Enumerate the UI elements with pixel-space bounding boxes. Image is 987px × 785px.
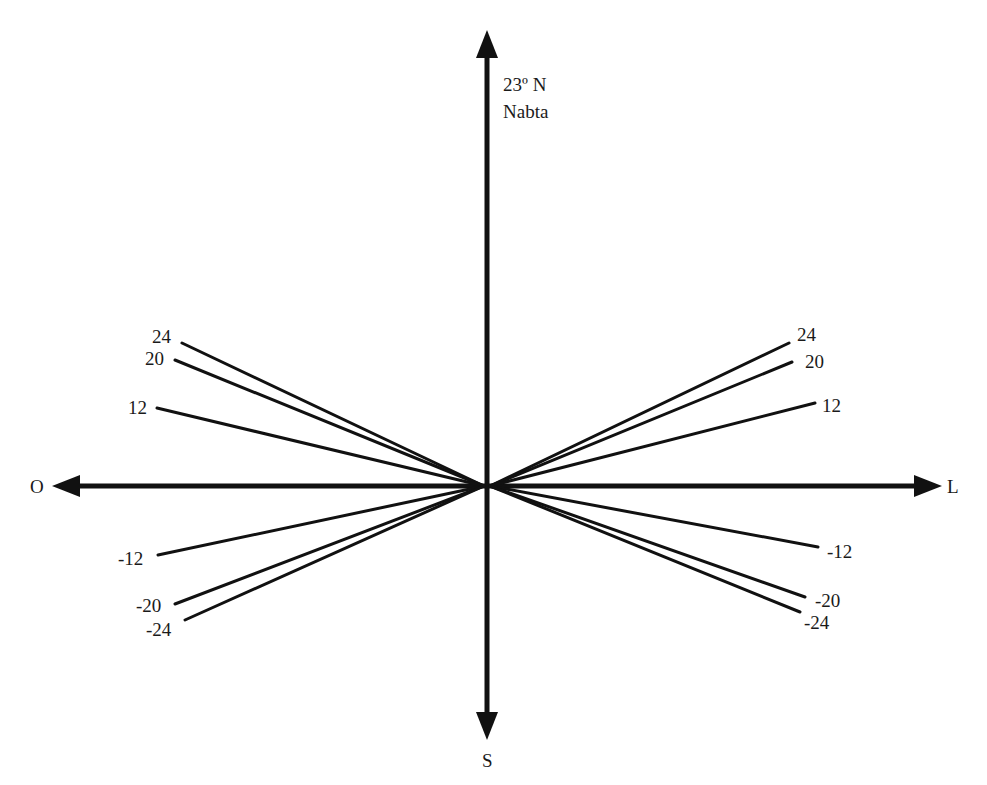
north-arrowhead — [476, 30, 498, 58]
ray-label-right-neg12: -12 — [827, 542, 852, 561]
ray-label-left-24: 24 — [152, 327, 171, 346]
west-arrowhead — [52, 475, 80, 497]
ray-label-right-20: 20 — [805, 352, 824, 371]
south-arrowhead — [476, 712, 498, 740]
arrowheads — [52, 30, 942, 740]
place-label: Nabta — [503, 102, 548, 121]
ray-left-neg12 — [158, 486, 484, 555]
ray-label-right-24: 24 — [797, 325, 816, 344]
west-label: O — [30, 477, 44, 496]
ray-right-20 — [490, 362, 792, 486]
ray-right-neg12 — [490, 486, 818, 547]
ray-left-neg20 — [175, 486, 484, 604]
ray-left-24 — [182, 343, 484, 486]
ray-right-24 — [490, 343, 789, 486]
ray-right-12 — [490, 403, 815, 486]
ray-label-right-neg20: -20 — [815, 591, 840, 610]
ray-label-left-neg12: -12 — [118, 549, 143, 568]
diagram-canvas — [0, 0, 987, 785]
east-arrowhead — [914, 475, 942, 497]
latitude-label: 23º N — [503, 75, 546, 94]
ray-label-right-12: 12 — [822, 396, 841, 415]
ray-label-left-neg20: -20 — [136, 596, 161, 615]
east-label: L — [947, 477, 959, 496]
ray-label-right-neg24: -24 — [804, 613, 829, 632]
ray-left-neg24 — [185, 486, 484, 620]
ray-label-left-neg24: -24 — [146, 620, 171, 639]
ray-right-neg20 — [490, 486, 805, 597]
ray-label-left-20: 20 — [145, 349, 164, 368]
ray-label-left-12: 12 — [128, 398, 147, 417]
ray-right-neg24 — [490, 486, 800, 612]
axes — [75, 55, 918, 715]
south-label: S — [482, 751, 493, 770]
